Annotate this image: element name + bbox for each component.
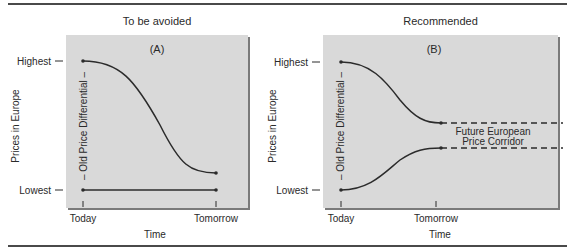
panel-b: (B) Highest Lowest Prices in Europe – Ol… <box>267 35 563 240</box>
y-axis-label: Prices in Europe <box>10 89 21 163</box>
y-tick-lowest: Lowest <box>276 185 308 196</box>
y-tick-highest: Highest <box>274 57 308 68</box>
panel-a-tag: (A) <box>150 43 165 55</box>
corridor-label-line2: Price Corridor <box>462 136 524 147</box>
panel-b-tag: (B) <box>427 43 442 55</box>
data-point <box>214 188 218 192</box>
data-point <box>214 171 218 175</box>
y-axis-label: Prices in Europe <box>267 89 278 163</box>
x-axis-label: Time <box>144 229 166 240</box>
x-tick-today: Today <box>70 213 97 224</box>
x-tick-tomorrow: Tomorrow <box>194 213 239 224</box>
panel-a: (A) Highest Lowest Prices in Europe – Ol… <box>10 35 250 240</box>
x-axis-label: Time <box>429 229 451 240</box>
price-diagram: (A) Highest Lowest Prices in Europe – Ol… <box>0 0 567 252</box>
y-tick-highest: Highest <box>17 56 51 67</box>
data-point <box>81 188 85 192</box>
data-point <box>81 59 85 63</box>
x-tick-tomorrow: Tomorrow <box>414 213 459 224</box>
x-tick-today: Today <box>328 213 355 224</box>
data-point <box>339 188 343 192</box>
old-price-differential-label: – Old Price Differential – <box>335 71 346 180</box>
y-tick-lowest: Lowest <box>19 185 51 196</box>
data-point <box>339 60 343 64</box>
old-price-differential-label: – Old Price Differential – <box>78 71 89 180</box>
